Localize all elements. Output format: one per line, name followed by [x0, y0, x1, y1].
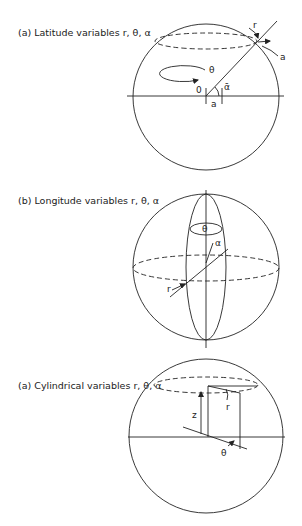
figure-cylindrical: (a) Cylindrical variables r, θ, α z r θ [18, 359, 285, 513]
figure-latitude: (a) Latitude variables r, θ, α r a θ 0 ᾱ… [18, 20, 286, 170]
latitude-circle [154, 377, 258, 393]
figure-longitude: (b) Longitude variables r, θ, α θ α r [18, 190, 279, 348]
r-arrow [172, 284, 185, 290]
r-line [208, 386, 240, 393]
label-alpha: α [215, 238, 221, 248]
caption-longitude: (b) Longitude variables r, θ, α [18, 195, 159, 206]
radius-line [206, 21, 277, 96]
latitude-circle [155, 33, 257, 49]
a-leader-line [262, 46, 278, 56]
label-origin: 0 [196, 85, 202, 95]
oblique-base [183, 427, 247, 449]
label-theta: θ [202, 224, 208, 234]
theta-arrow [228, 441, 234, 446]
label-r: r [253, 20, 257, 30]
diagram-canvas: (a) Latitude variables r, θ, α r a θ 0 ᾱ… [0, 0, 302, 526]
caption-latitude: (a) Latitude variables r, θ, α [18, 27, 151, 38]
label-r: r [167, 284, 171, 294]
alpha-arc [215, 87, 219, 96]
caption-cylindrical: (a) Cylindrical variables r, θ, α [18, 380, 161, 391]
label-a-outer: a [280, 52, 286, 62]
alpha-line [206, 243, 213, 263]
label-theta: θ [209, 65, 215, 75]
label-alpha: ᾱ [224, 82, 230, 92]
tangent-arrow [258, 41, 270, 42]
label-r: r [226, 402, 230, 412]
label-a-base: a [211, 99, 217, 109]
label-theta: θ [221, 448, 227, 458]
theta-rotation-arrow [160, 66, 205, 82]
label-z: z [192, 410, 197, 420]
